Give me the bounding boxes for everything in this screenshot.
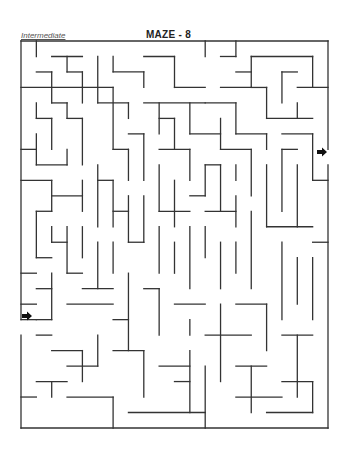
maze-grid xyxy=(0,0,337,453)
maze-walls xyxy=(21,41,328,428)
exit-arrow-icon xyxy=(317,148,327,157)
maze-arrows xyxy=(22,148,327,321)
